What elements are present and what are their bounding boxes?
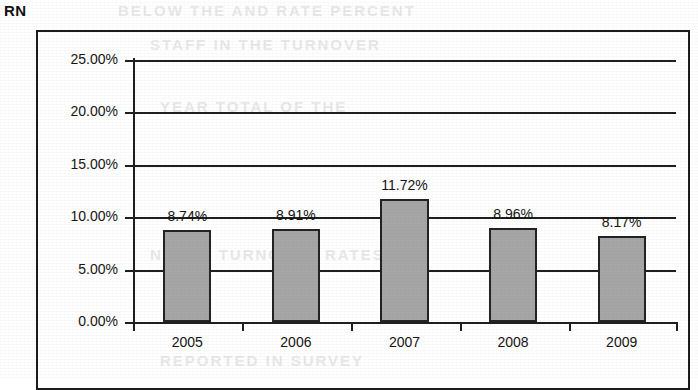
y-axis-label-20: 20.00% <box>32 103 118 119</box>
x-tick-3 <box>460 322 462 331</box>
x-tick-2 <box>351 322 353 331</box>
bar-value-label-2006: 8.91% <box>276 207 316 223</box>
bar-2007[interactable] <box>380 199 428 322</box>
chart-title: RN <box>4 2 26 19</box>
bar-value-label-2009: 8.17% <box>602 214 642 230</box>
scan-ghost-text-row1: BELOW THE AND RATE PERCENT <box>118 2 416 19</box>
bar-value-label-2007: 11.72% <box>381 177 427 193</box>
category-axis-line <box>133 322 678 324</box>
y-tick-5 <box>125 270 134 272</box>
bar-2006[interactable] <box>272 229 320 322</box>
x-tick-0 <box>133 322 135 331</box>
y-tick-20 <box>125 112 134 114</box>
gridline-20 <box>133 112 676 114</box>
y-tick-10 <box>125 217 134 219</box>
bar-value-label-2005: 8.74% <box>167 208 207 224</box>
y-axis-label-5: 5.00% <box>32 261 118 277</box>
bar-value-label-2008: 8.96% <box>493 206 533 222</box>
gridline-15 <box>133 165 676 167</box>
x-axis-label-2008: 2008 <box>498 334 529 350</box>
y-axis-label-25: 25.00% <box>32 51 118 67</box>
x-axis-label-2006: 2006 <box>280 334 311 350</box>
value-axis-line <box>133 58 135 324</box>
y-tick-25 <box>125 60 134 62</box>
x-axis-label-2005: 2005 <box>172 334 203 350</box>
x-axis-label-2009: 2009 <box>606 334 637 350</box>
x-tick-1 <box>242 322 244 331</box>
x-axis-label-2007: 2007 <box>389 334 420 350</box>
bar-2009[interactable] <box>598 236 646 322</box>
gridline-25 <box>133 60 676 62</box>
y-axis-label-15: 15.00% <box>32 156 118 172</box>
y-axis-label-10: 10.00% <box>32 208 118 224</box>
bar-2005[interactable] <box>163 230 211 322</box>
x-tick-5 <box>676 322 678 331</box>
x-tick-4 <box>569 322 571 331</box>
y-axis-label-0: 0.00% <box>32 313 118 329</box>
bar-2008[interactable] <box>489 228 537 322</box>
y-tick-15 <box>125 165 134 167</box>
